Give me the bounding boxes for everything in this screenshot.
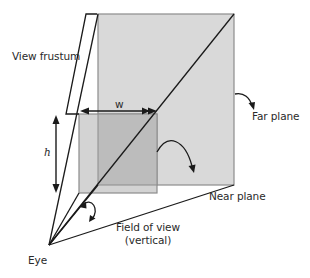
far-plane-label: Far plane — [252, 110, 299, 123]
height-label: h — [44, 146, 51, 159]
near-far-overlap — [98, 114, 157, 185]
fov-label-line1: Field of view — [108, 221, 188, 234]
fov-label: Field of view (vertical) — [108, 221, 188, 247]
near-plane-label: Near plane — [209, 190, 266, 203]
fov-label-line2: (vertical) — [108, 234, 188, 247]
eye-label: Eye — [28, 254, 47, 267]
width-label: w — [115, 98, 124, 111]
view-frustum-bracket — [66, 14, 97, 114]
view-frustum-label: View frustum — [12, 50, 80, 63]
